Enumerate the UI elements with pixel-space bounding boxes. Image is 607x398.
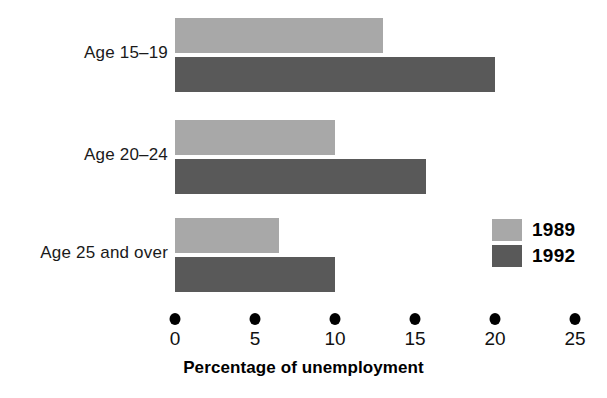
legend-swatch-1992-icon: [492, 245, 522, 267]
category-label: Age 25 and over: [40, 243, 168, 263]
axis-tick-dot-icon: [250, 313, 261, 325]
axis-tick-dot-icon: [330, 313, 341, 325]
category-label: Age 15–19: [84, 43, 168, 63]
plot-area: [175, 0, 607, 398]
axis-tick-dot-icon: [490, 313, 501, 325]
bar-1989-age-15-19: [175, 18, 383, 53]
legend-item-1992: 1992: [492, 244, 575, 268]
bar-1989-age-20-24: [175, 120, 335, 155]
legend-swatch-1989-icon: [492, 219, 522, 241]
bar-1989-age-25-and-over: [175, 218, 279, 253]
legend-label: 1989: [532, 219, 575, 241]
category-label: Age 20–24: [84, 145, 168, 165]
axis-tick-label: 10: [324, 328, 345, 350]
x-axis-title: Percentage of unemployment: [0, 358, 607, 378]
axis-tick-label: 15: [404, 328, 425, 350]
bar-1992-age-15-19: [175, 57, 495, 92]
bar-1992-age-25-and-over: [175, 257, 335, 292]
legend-item-1989: 1989: [492, 218, 575, 242]
bar-chart: Age 15–19 Age 20–24 Age 25 and over 0510…: [0, 0, 607, 398]
axis-tick-dot-icon: [410, 313, 421, 325]
axis-tick-label: 5: [250, 328, 261, 350]
bar-1992-age-20-24: [175, 159, 426, 194]
axis-tick-dot-icon: [170, 313, 181, 325]
legend: 1989 1992: [492, 218, 575, 270]
axis-tick-label: 0: [170, 328, 181, 350]
axis-tick-label: 20: [484, 328, 505, 350]
legend-label: 1992: [532, 245, 575, 267]
axis-tick-label: 25: [564, 328, 585, 350]
axis-tick-dot-icon: [570, 313, 581, 325]
